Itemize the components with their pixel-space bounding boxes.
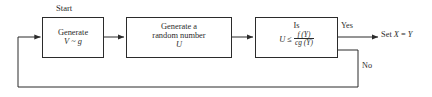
decision-operator: ≤ <box>287 35 292 44</box>
decision-fraction: f (Y) cg (Y) <box>294 31 314 48</box>
output-label-set-x: Set X = Y <box>381 30 413 39</box>
output-var-y: Y <box>408 30 413 39</box>
generate-u-line-3: U <box>126 40 232 49</box>
start-caption: Start <box>56 4 72 13</box>
generate-y-variable: V <box>64 37 69 46</box>
decision-denominator: cg (Y) <box>294 38 314 47</box>
edge-label-yes: Yes <box>341 22 353 31</box>
output-equals: = <box>401 30 406 39</box>
decision-lhs: U <box>279 35 285 44</box>
generate-u-line-2: random number <box>126 31 232 40</box>
edge-label-no: No <box>362 62 372 71</box>
generate-y-line-2: V ~ g <box>42 37 104 46</box>
decision-inequality: U ≤ f (Y) cg (Y) <box>255 31 338 48</box>
generate-y-relation: ~ <box>71 37 76 46</box>
node-label-decision: Is U ≤ f (Y) cg (Y) <box>255 21 338 48</box>
generate-u-line-1: Generate a <box>126 22 232 31</box>
generate-y-line-1: Generate <box>42 28 104 37</box>
output-var-x: X <box>394 30 399 39</box>
decision-numerator: f (Y) <box>294 31 314 39</box>
decision-line-1: Is <box>255 21 338 30</box>
node-label-generate-u: Generate a random number U <box>126 22 232 49</box>
node-label-generate-y: Generate V ~ g <box>42 28 104 46</box>
output-prefix: Set <box>381 30 392 39</box>
flowchart-canvas: Start Generate V ~ g Generate a random n… <box>0 0 432 97</box>
generate-y-distribution: g <box>78 37 82 46</box>
